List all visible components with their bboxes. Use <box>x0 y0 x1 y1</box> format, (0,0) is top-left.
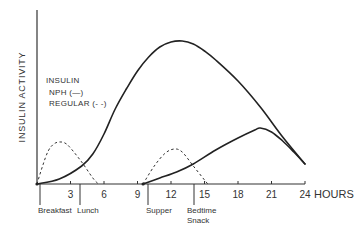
regular-curve-3 <box>143 149 208 184</box>
snack-label: Snack <box>187 216 210 225</box>
curves <box>35 41 305 186</box>
breakfast-label: Breakfast <box>38 206 73 215</box>
tick-label-15: 15 <box>199 189 211 200</box>
supper-label: Supper <box>146 206 172 215</box>
tick-label-3: 3 <box>68 189 74 200</box>
tick-label-18: 18 <box>232 189 244 200</box>
tick-label-9: 9 <box>135 189 141 200</box>
tick-label-6: 6 <box>101 189 107 200</box>
legend-title: INSULIN <box>46 76 80 85</box>
legend-nph: NPH (—) <box>49 88 84 97</box>
tick-label-21: 21 <box>266 189 278 200</box>
y-axis-label: INSULIN ACTIVITY <box>17 52 27 143</box>
tick-label-12: 12 <box>165 189 177 200</box>
tick-label-24: 24 <box>299 189 311 200</box>
legend-regular: REGULAR (- -) <box>49 99 107 108</box>
insulin-activity-chart: INSULIN ACTIVITY 3 6 9 12 15 18 21 24 HO… <box>0 0 363 234</box>
legend: INSULIN NPH (—) REGULAR (- -) <box>46 76 107 108</box>
nph-curve-0 <box>37 41 305 184</box>
dose-origin-dot <box>141 182 144 185</box>
bedtime-label: Bedtime <box>187 206 217 215</box>
lunch-label: Lunch <box>77 206 99 215</box>
meal-markers: Breakfast Lunch Supper Bedtime Snack <box>38 184 217 225</box>
x-axis-unit-label: HOURS <box>314 188 354 200</box>
nph-curve-1 <box>143 128 305 184</box>
regular-curve-2 <box>37 142 98 184</box>
dose-origin-dot <box>35 182 38 185</box>
